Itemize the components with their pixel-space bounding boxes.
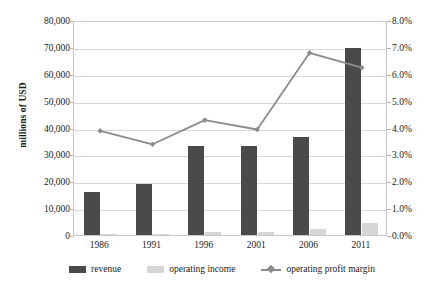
y-axis-left-tick-label: 70,000	[44, 43, 70, 53]
y-axis-left-tick-label: 20,000	[44, 177, 70, 187]
x-axis-tick-label: 1996	[179, 240, 229, 251]
y-axis-left-tick-mark	[69, 129, 73, 130]
x-axis-tick-label: 2006	[284, 240, 334, 251]
legend-label-operating-profit-margin: operating profit margin	[286, 264, 374, 274]
x-axis-tick-label: 1986	[74, 240, 124, 251]
y-axis-right-tick-label: 4.0%	[392, 124, 412, 134]
legend-swatch-operating-income	[147, 266, 164, 273]
legend-swatch-revenue	[69, 266, 86, 273]
y-axis-left-tick-mark	[69, 21, 73, 22]
x-axis-tick-label: 2001	[231, 240, 281, 251]
y-axis-right-tick-label: 1.0%	[392, 204, 412, 214]
x-axis-tick-label: 2011	[336, 240, 386, 251]
line-marker-operating-profit-margin	[359, 65, 365, 71]
y-axis-right-tick-label: 6.0%	[392, 70, 412, 80]
chart-legend: revenue operating income operating profi…	[0, 264, 444, 274]
y-axis-title: millions of USD	[18, 45, 28, 185]
y-axis-right-tick-mark	[387, 155, 391, 156]
y-axis-left-tick-mark	[69, 182, 73, 183]
legend-item-operating-income: operating income	[147, 264, 235, 274]
legend-item-operating-profit-margin: operating profit margin	[261, 264, 374, 274]
y-axis-right-tick-mark	[387, 129, 391, 130]
plot-area	[73, 21, 387, 236]
line-series-operating-profit-margin	[74, 22, 388, 237]
legend-label-operating-income: operating income	[169, 264, 235, 274]
y-axis-right-tick-label: 8.0%	[392, 16, 412, 26]
y-axis-right-tick-label: 7.0%	[392, 43, 412, 53]
y-axis-left-tick-label: 50,000	[44, 97, 70, 107]
y-axis-left-tick-label: 30,000	[44, 150, 70, 160]
y-axis-left-tick-mark	[69, 236, 73, 237]
y-axis-right-tick-label: 0.0%	[392, 231, 412, 241]
y-axis-left-tick-mark	[69, 75, 73, 76]
line-marker-operating-profit-margin	[202, 117, 208, 123]
y-axis-right-tick-mark	[387, 102, 391, 103]
y-axis-right-tick-label: 5.0%	[392, 97, 412, 107]
y-axis-left-tick-label: 40,000	[44, 124, 70, 134]
y-axis-left-tick-label: 60,000	[44, 70, 70, 80]
y-axis-right-tick-label: 2.0%	[392, 177, 412, 187]
y-axis-left-tick-label: 80,000	[44, 16, 70, 26]
legend-label-revenue: revenue	[91, 264, 121, 274]
y-axis-right-tick-mark	[387, 209, 391, 210]
chart-container: millions of USD 010,00020,00030,00040,00…	[0, 0, 444, 293]
y-axis-left-tick-mark	[69, 155, 73, 156]
y-axis-left-tick-mark	[69, 48, 73, 49]
x-axis-tick-label: 1991	[127, 240, 177, 251]
y-axis-right-tick-mark	[387, 236, 391, 237]
line-marker-operating-profit-margin	[97, 128, 103, 134]
y-axis-right-tick-mark	[387, 21, 391, 22]
y-axis-left-tick-mark	[69, 102, 73, 103]
y-axis-right-tick-mark	[387, 75, 391, 76]
legend-swatch-operating-profit-margin	[261, 265, 281, 274]
y-axis-left-tick-mark	[69, 209, 73, 210]
y-axis-right-tick-mark	[387, 48, 391, 49]
y-axis-left-tick-label: 10,000	[44, 204, 70, 214]
y-axis-right-tick-mark	[387, 182, 391, 183]
line-path-operating-profit-margin	[100, 53, 362, 144]
line-marker-operating-profit-margin	[150, 141, 156, 147]
legend-item-revenue: revenue	[69, 264, 121, 274]
y-axis-right-tick-label: 3.0%	[392, 150, 412, 160]
